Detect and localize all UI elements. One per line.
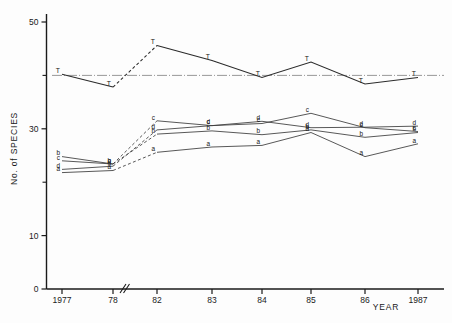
- point-T-86: T: [359, 77, 363, 84]
- x-tick-label-1987: 1987: [409, 295, 428, 305]
- x-tick-label-84: 84: [257, 295, 267, 305]
- point-b-84: b: [256, 127, 260, 134]
- point-T-84: T: [256, 70, 260, 77]
- point-d-86: d: [359, 120, 363, 127]
- series-point-labels: TTTTTTTTaaaaaaaabbbbbbbbccccccccdddddddd: [56, 38, 417, 172]
- y-tick-label-10: 10: [29, 231, 39, 241]
- point-T-85: T: [305, 55, 309, 62]
- species-year-line-chart: 0103050 19777882838485861987 TTTTTTTTaaa…: [0, 0, 452, 323]
- point-a-1987: a: [412, 137, 416, 144]
- point-d-83: d: [206, 118, 210, 125]
- point-c-1977: c: [57, 154, 61, 161]
- series-lines: [62, 46, 418, 173]
- y-axis-title: No. of SPECIES: [9, 112, 19, 185]
- x-tick-label-85: 85: [306, 295, 316, 305]
- series-b-segment-break: [113, 134, 157, 164]
- x-tick-label-82: 82: [152, 295, 162, 305]
- point-d-82: d: [151, 123, 155, 130]
- point-a-83: a: [206, 140, 210, 147]
- point-d-1987: d: [412, 119, 416, 126]
- point-a-82: a: [151, 145, 155, 152]
- y-tick-label-30: 30: [29, 124, 39, 134]
- point-d-1977: d: [56, 162, 60, 169]
- point-T-82: T: [151, 38, 155, 45]
- x-tick-label-78: 78: [108, 295, 118, 305]
- point-b-86: b: [359, 130, 363, 137]
- figure-container: 0103050 19777882838485861987 TTTTTTTTaaa…: [0, 0, 452, 323]
- point-c-82: c: [152, 114, 156, 121]
- x-tick-label-83: 83: [207, 295, 217, 305]
- series-a-segment-break: [113, 152, 157, 170]
- x-tick-label-1977: 1977: [53, 295, 72, 305]
- point-d-84: d: [256, 114, 260, 121]
- point-T-78: T: [107, 80, 111, 87]
- series-a-segment-early: [62, 171, 113, 173]
- point-T-1987: T: [412, 70, 416, 77]
- series-T-segment-late: [157, 46, 418, 84]
- series-b-segment-early: [62, 157, 113, 164]
- x-axis-title: YEAR: [373, 302, 399, 312]
- point-T-1977: T: [56, 67, 60, 74]
- series-d-segment-break: [113, 130, 157, 166]
- series-T-segment-early: [62, 74, 113, 87]
- series-T-segment-break: [113, 46, 157, 88]
- series-c-segment-late: [157, 113, 418, 131]
- y-tick-label-50: 50: [29, 17, 39, 27]
- point-c-85: c: [306, 106, 310, 113]
- point-d-85: d: [305, 121, 309, 128]
- y-tick-label-0: 0: [34, 284, 39, 294]
- x-axis-tick-labels: 19777882838485861987: [53, 295, 428, 305]
- series-c-segment-early: [62, 161, 113, 164]
- point-T-83: T: [206, 53, 210, 60]
- y-axis: 0103050: [29, 14, 46, 294]
- x-axis-ticks: [62, 289, 418, 294]
- x-tick-label-86: 86: [360, 295, 370, 305]
- series-c-segment-break: [113, 121, 157, 164]
- y-axis-ticks: [42, 22, 47, 289]
- point-d-78: d: [107, 159, 111, 166]
- point-a-86: a: [359, 149, 363, 156]
- series-b-segment-late: [157, 130, 418, 137]
- series-d-segment-early: [62, 166, 113, 169]
- point-a-84: a: [256, 138, 260, 145]
- y-axis-tick-labels: 0103050: [29, 17, 39, 294]
